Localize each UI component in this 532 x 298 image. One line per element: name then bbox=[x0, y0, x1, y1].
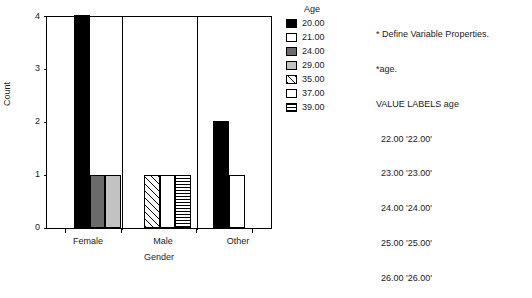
legend-swatch-horizontal-lines-icon bbox=[286, 103, 297, 112]
y-tick-4: 4 bbox=[20, 12, 40, 21]
legend-swatch-light-gray-icon bbox=[286, 61, 297, 70]
syntax-line: 24.00 '24.00' bbox=[376, 203, 532, 215]
syntax-line: 26.00 '26.00' bbox=[376, 273, 532, 285]
syntax-line: * Define Variable Properties. bbox=[376, 29, 532, 41]
bar-male-37 bbox=[160, 175, 175, 228]
legend-label-29: 29.00 bbox=[302, 61, 325, 70]
syntax-line: 23.00 '23.00' bbox=[376, 168, 532, 180]
plot-area bbox=[46, 16, 272, 229]
panel-divider-1 bbox=[122, 17, 123, 230]
legend-label-24: 24.00 bbox=[302, 47, 325, 56]
y-tick-1: 1 bbox=[20, 170, 40, 179]
bar-chart: Count 4 3 2 1 0 bbox=[0, 0, 285, 298]
x-tick-mark-1 bbox=[121, 229, 122, 233]
x-category-other: Other bbox=[208, 236, 268, 246]
bar-female-29 bbox=[105, 175, 121, 228]
y-tick-2: 2 bbox=[20, 117, 40, 126]
syntax-line: 22.00 '22.00' bbox=[376, 134, 532, 146]
legend-swatch-diagonal-hatch-icon bbox=[286, 75, 297, 84]
x-category-male: Male bbox=[133, 236, 193, 246]
legend-item-39: 39.00 bbox=[286, 101, 370, 114]
legend-label-37: 37.00 bbox=[302, 89, 325, 98]
x-category-female: Female bbox=[58, 236, 118, 246]
legend-label-20: 20.00 bbox=[302, 19, 325, 28]
y-axis-label-text: Count bbox=[2, 82, 12, 106]
bar-female-20 bbox=[74, 15, 90, 228]
legend-item-21: 21.00 bbox=[286, 31, 370, 44]
legend-item-24: 24.00 bbox=[286, 45, 370, 58]
syntax-line: VALUE LABELS age bbox=[376, 99, 532, 111]
legend-swatch-stipple-dots-icon bbox=[286, 89, 297, 98]
syntax-line: 25.00 '25.00' bbox=[376, 238, 532, 250]
syntax-text-block: * Define Variable Properties. *age. VALU… bbox=[376, 6, 532, 298]
x-tick-mark-3 bbox=[252, 229, 253, 233]
legend-item-29: 29.00 bbox=[286, 59, 370, 72]
legend-item-37: 37.00 bbox=[286, 87, 370, 100]
y-axis-label: Count bbox=[2, 82, 12, 106]
legend-swatch-solid-white-icon bbox=[286, 33, 297, 42]
chart-page: Count 4 3 2 1 0 bbox=[0, 0, 532, 298]
x-tick-mark-0 bbox=[65, 229, 66, 233]
legend-label-39: 39.00 bbox=[302, 103, 325, 112]
legend-title: Age bbox=[304, 4, 370, 14]
syntax-line: *age. bbox=[376, 64, 532, 76]
legend-swatch-dark-gray-icon bbox=[286, 47, 297, 56]
legend-swatch-solid-black-icon bbox=[286, 19, 297, 28]
y-tick-3: 3 bbox=[20, 64, 40, 73]
legend-item-35: 35.00 bbox=[286, 73, 370, 86]
chart-legend: Age 20.00 21.00 24.00 29.00 35.00 37.00 … bbox=[286, 4, 370, 115]
x-axis-label: Gender bbox=[46, 252, 272, 262]
bar-male-39 bbox=[175, 175, 191, 228]
legend-label-21: 21.00 bbox=[302, 33, 325, 42]
y-tick-0: 0 bbox=[20, 223, 40, 232]
y-axis-ticks: 4 3 2 1 0 bbox=[18, 0, 40, 298]
x-tick-mark-2 bbox=[196, 229, 197, 233]
bar-other-21 bbox=[229, 175, 245, 228]
bar-other-20 bbox=[213, 121, 229, 228]
panel-divider-2 bbox=[197, 17, 198, 230]
bar-female-24 bbox=[90, 175, 105, 228]
bar-male-35 bbox=[144, 175, 160, 228]
legend-label-35: 35.00 bbox=[302, 75, 325, 84]
legend-item-20: 20.00 bbox=[286, 17, 370, 30]
